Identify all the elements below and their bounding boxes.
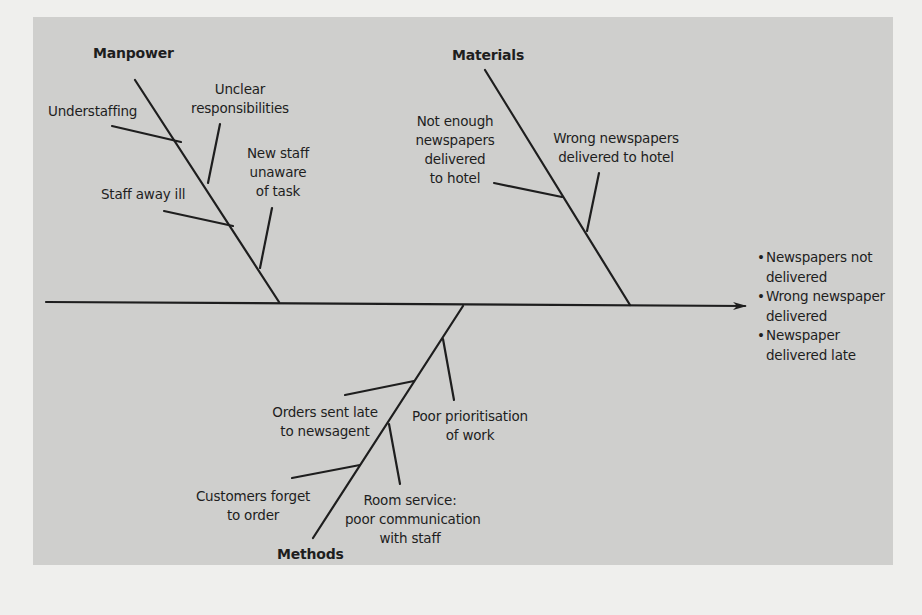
category-materials: Materials xyxy=(452,46,524,65)
new-staff-branch xyxy=(260,208,272,268)
category-manpower: Manpower xyxy=(93,44,174,63)
cause-staff-away-ill: Staff away ill xyxy=(101,185,185,204)
cause-room-service: Room service: poor communication with st… xyxy=(345,491,475,548)
cause-not-enough-newspapers: Not enough newspapers delivered to hotel xyxy=(410,112,500,188)
cause-wrong-newspapers: Wrong newspapers delivered to hotel xyxy=(552,129,680,167)
customers-branch xyxy=(292,465,360,478)
room-service-branch xyxy=(389,424,400,484)
materials-bone xyxy=(485,70,630,305)
bullet-icon: • xyxy=(757,326,765,346)
category-methods: Methods xyxy=(277,545,344,564)
bullet-icon: • xyxy=(757,287,765,307)
not-enough-branch xyxy=(494,183,562,197)
effect-item: • Wrong newspaper delivered xyxy=(757,287,885,326)
cause-poor-prioritisation: Poor prioritisation of work xyxy=(405,407,535,445)
cause-orders-sent-late: Orders sent late to newsagent xyxy=(266,403,384,441)
orders-branch xyxy=(345,381,414,395)
cause-understaffing: Understaffing xyxy=(48,102,137,121)
effects-list: • Newspapers not delivered • Wrong newsp… xyxy=(757,248,885,365)
poor-prioritisation-branch xyxy=(443,339,454,400)
cause-unclear-responsibilities: Unclear responsibilities xyxy=(190,80,290,118)
effect-item: • Newspaper delivered late xyxy=(757,326,885,365)
effect-item: • Newspapers not delivered xyxy=(757,248,885,287)
cause-new-staff-unaware: New staff unaware of task xyxy=(243,144,313,201)
unclear-branch xyxy=(208,124,220,183)
wrong-newspapers-branch xyxy=(587,173,599,231)
spine-arrow xyxy=(46,302,745,306)
bullet-icon: • xyxy=(757,248,765,268)
cause-customers-forget: Customers forget to order xyxy=(190,487,316,525)
